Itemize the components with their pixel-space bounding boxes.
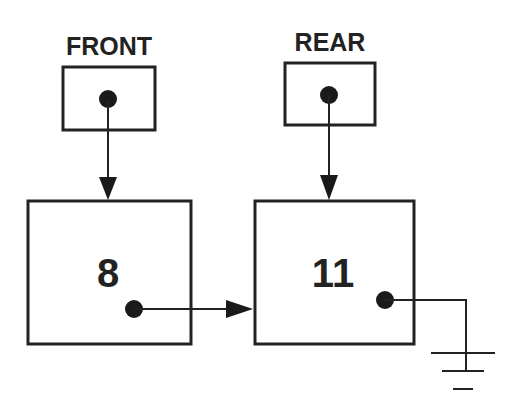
node-2-value: 11 bbox=[312, 251, 354, 295]
ground-null-icon bbox=[431, 353, 495, 389]
front-label: FRONT bbox=[66, 32, 152, 60]
rear-label: REAR bbox=[295, 28, 366, 56]
rear-arrowhead-icon bbox=[320, 175, 338, 200]
front-arrowhead-icon bbox=[99, 177, 117, 200]
node-1-value: 8 bbox=[97, 251, 119, 295]
node-1-arrowhead-icon bbox=[226, 300, 253, 318]
linked-queue-diagram: FRONT REAR 8 11 bbox=[0, 0, 515, 406]
